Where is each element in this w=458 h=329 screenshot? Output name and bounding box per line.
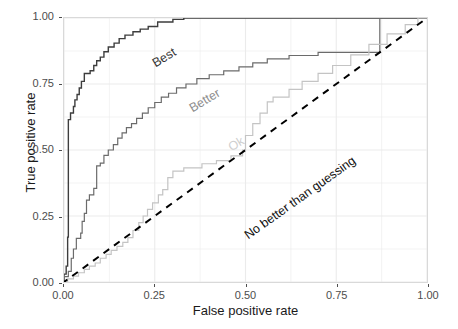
x-tick-mark-0.00 <box>63 284 64 287</box>
y-tick-label-1.00: 1.00 <box>14 10 54 22</box>
x-tick-mark-0.50 <box>246 284 247 287</box>
x-tick-label-1.00: 1.00 <box>408 289 448 301</box>
y-tick-label-0.50: 0.50 <box>14 143 54 155</box>
plot-panel: Best Better Ok No better than guessing <box>63 17 428 283</box>
x-tick-mark-0.25 <box>154 284 155 287</box>
x-tick-mark-1.00 <box>428 284 429 287</box>
x-tick-mark-0.75 <box>337 284 338 287</box>
y-tick-label-0.00: 0.00 <box>14 276 54 288</box>
y-tick-mark-0.25 <box>59 217 62 218</box>
y-tick-mark-1.00 <box>59 17 62 18</box>
y-tick-mark-0.75 <box>59 84 62 85</box>
y-tick-label-0.25: 0.25 <box>14 210 54 222</box>
x-tick-label-0.75: 0.75 <box>317 289 357 301</box>
roc-chart-figure: Best Better Ok No better than guessing T… <box>0 0 458 329</box>
y-tick-mark-0.50 <box>59 150 62 151</box>
y-tick-mark-0.00 <box>59 283 62 284</box>
plot-canvas <box>64 18 427 282</box>
x-tick-label-0.00: 0.00 <box>43 289 83 301</box>
x-tick-label-0.25: 0.25 <box>134 289 174 301</box>
y-tick-label-0.75: 0.75 <box>14 77 54 89</box>
x-axis-title: False positive rate <box>63 303 428 318</box>
x-tick-label-0.50: 0.50 <box>226 289 266 301</box>
